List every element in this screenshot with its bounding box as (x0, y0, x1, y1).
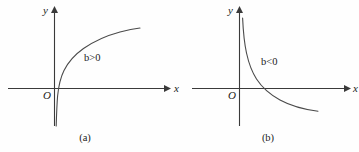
panel-b-x-axis-label: x (352, 82, 358, 94)
panel-a: x y O b>0 (a) (8, 4, 179, 144)
panel-b-log-curve (243, 18, 318, 111)
panel-a-caption: (a) (79, 132, 91, 144)
panel-a-annotation-b-positive: b>0 (84, 52, 100, 63)
panel-a-y-axis-label: y (42, 4, 48, 16)
panel-a-x-axis-arrow-icon (164, 85, 171, 92)
panel-b: x y O b<0 (b) (192, 4, 358, 144)
panel-a-y-axis-arrow-icon (51, 6, 58, 13)
panel-b-caption: (b) (262, 132, 275, 144)
panel-a-x-axis-label: x (173, 82, 179, 94)
panel-b-annotation-b-negative: b<0 (261, 56, 277, 67)
figure-container: x y O b>0 (a) x y O (0, 0, 359, 152)
panel-b-origin-label: O (228, 89, 236, 101)
panel-b-y-axis-arrow-icon (236, 6, 243, 13)
panel-b-y-axis-label: y (227, 4, 233, 16)
panel-a-origin-label: O (43, 89, 51, 101)
panel-b-x-axis-arrow-icon (344, 85, 351, 92)
two-panel-log-graph-figure: x y O b>0 (a) x y O (0, 0, 359, 152)
panel-a-log-curve (56, 28, 140, 126)
